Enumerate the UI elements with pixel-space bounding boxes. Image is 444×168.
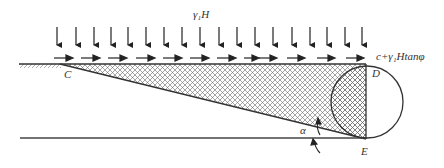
vertical-load-arrows — [57, 27, 362, 45]
diagram-canvas — [0, 0, 444, 168]
vertical-load-label: γ₁H — [193, 8, 209, 20]
point-e-label: E — [361, 145, 368, 157]
shear-load-arrows — [54, 55, 364, 61]
point-c-label: C — [64, 68, 71, 80]
shear-load-label: c+γ₁Htanφ — [376, 50, 425, 62]
angle-alpha-label: α — [300, 124, 306, 136]
point-d-label: D — [372, 67, 380, 79]
